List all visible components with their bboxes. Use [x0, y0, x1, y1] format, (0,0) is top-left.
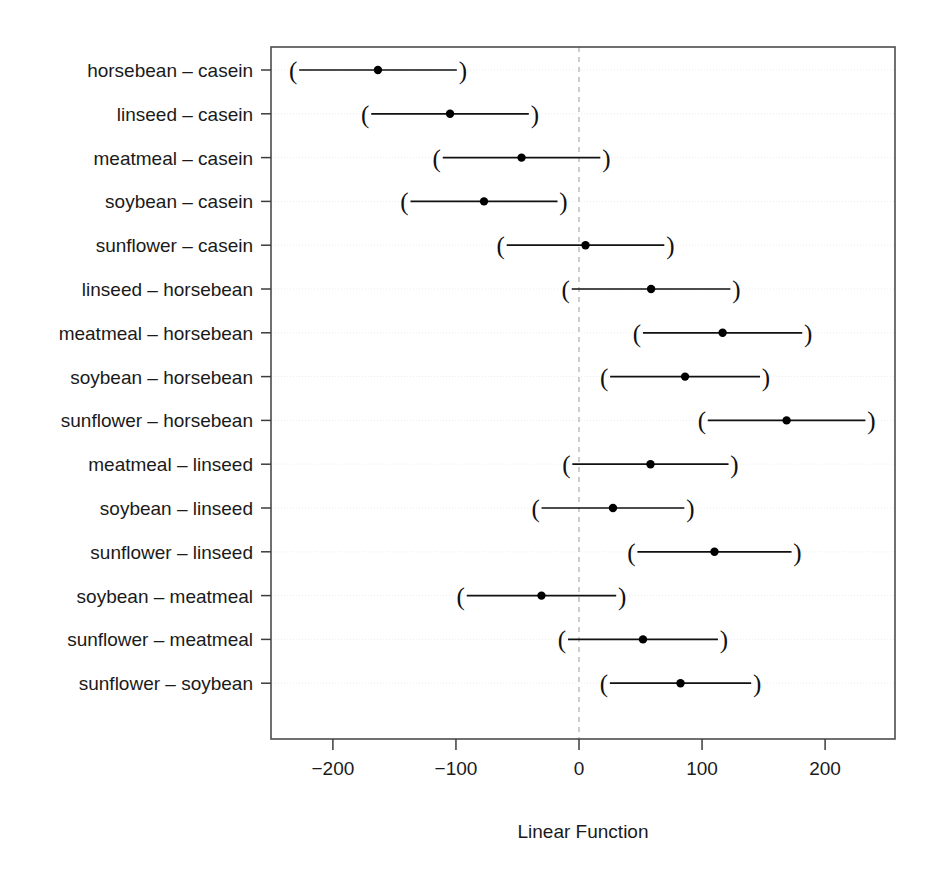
- x-axis-title: Linear Function: [518, 821, 649, 842]
- interval-upper-paren: ): [753, 670, 761, 698]
- y-axis-label: soybean – casein: [105, 191, 253, 212]
- interval-upper-paren: ): [732, 276, 740, 304]
- interval-upper-paren: ): [720, 626, 728, 654]
- interval-upper-paren: ): [459, 57, 467, 85]
- interval-upper-paren: ): [730, 451, 738, 479]
- estimate-point: [374, 66, 382, 74]
- x-axis-tick-label: 100: [686, 758, 718, 779]
- interval-upper-paren: ): [762, 364, 770, 392]
- x-axis-tick-label: −100: [435, 758, 478, 779]
- y-axis-label: soybean – linseed: [100, 498, 253, 519]
- interval-upper-paren: ): [867, 407, 875, 435]
- estimate-point: [639, 635, 647, 643]
- interval-lower-paren: (: [497, 232, 505, 260]
- interval-lower-paren: (: [400, 188, 408, 216]
- estimate-point: [446, 110, 454, 118]
- interval-lower-paren: (: [600, 670, 608, 698]
- tukey-confidence-interval-plot: ()()()()()()()()()()()()()()() horsebean…: [0, 0, 940, 874]
- y-axis-label: sunflower – linseed: [90, 542, 253, 563]
- interval-upper-paren: ): [686, 495, 694, 523]
- interval-lower-paren: (: [562, 276, 570, 304]
- y-axis-label: sunflower – soybean: [79, 673, 253, 694]
- estimate-point: [647, 285, 655, 293]
- plot-canvas: ()()()()()()()()()()()()()()() horsebean…: [0, 0, 940, 874]
- interval-lower-paren: (: [633, 320, 641, 348]
- estimate-point: [609, 504, 617, 512]
- interval-lower-paren: (: [433, 145, 441, 173]
- plot-background: [0, 0, 940, 874]
- estimate-point: [480, 197, 488, 205]
- interval-lower-paren: (: [562, 451, 570, 479]
- estimate-point: [517, 153, 525, 161]
- interval-upper-paren: ): [804, 320, 812, 348]
- interval-lower-paren: (: [361, 101, 369, 129]
- estimate-point: [782, 416, 790, 424]
- interval-lower-paren: (: [531, 495, 539, 523]
- x-axis-tick-label: 200: [809, 758, 841, 779]
- interval-upper-paren: ): [793, 539, 801, 567]
- x-axis-tick-label: 0: [574, 758, 585, 779]
- estimate-point: [710, 548, 718, 556]
- interval-lower-paren: (: [600, 364, 608, 392]
- y-axis-label: soybean – meatmeal: [77, 586, 253, 607]
- y-axis-label: soybean – horsebean: [70, 367, 253, 388]
- estimate-point: [537, 591, 545, 599]
- y-axis-label: linseed – horsebean: [82, 279, 253, 300]
- estimate-point: [646, 460, 654, 468]
- y-axis-label: meatmeal – horsebean: [59, 323, 253, 344]
- interval-upper-paren: ): [618, 583, 626, 611]
- y-axis-label: linseed – casein: [117, 104, 253, 125]
- interval-upper-paren: ): [602, 145, 610, 173]
- interval-lower-paren: (: [457, 583, 465, 611]
- x-axis-tick-label: −200: [312, 758, 355, 779]
- interval-upper-paren: ): [531, 101, 539, 129]
- y-axis-label: sunflower – meatmeal: [67, 629, 253, 650]
- interval-upper-paren: ): [666, 232, 674, 260]
- estimate-point: [718, 329, 726, 337]
- y-axis-label: sunflower – casein: [96, 235, 253, 256]
- estimate-point: [676, 679, 684, 687]
- y-axis-label: horsebean – casein: [87, 60, 253, 81]
- interval-lower-paren: (: [627, 539, 635, 567]
- y-axis-label: meatmeal – casein: [94, 148, 253, 169]
- interval-lower-paren: (: [289, 57, 297, 85]
- y-axis-label: meatmeal – linseed: [88, 454, 253, 475]
- estimate-point: [581, 241, 589, 249]
- y-axis-label: sunflower – horsebean: [61, 410, 253, 431]
- interval-upper-paren: ): [559, 188, 567, 216]
- estimate-point: [681, 372, 689, 380]
- interval-lower-paren: (: [558, 626, 566, 654]
- interval-lower-paren: (: [698, 407, 706, 435]
